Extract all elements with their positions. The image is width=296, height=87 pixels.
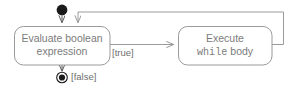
- uml-state-diagram: Evaluate boolean expression Execute whil…: [0, 0, 296, 87]
- evaluate-boolean-expression-state[interactable]: [14, 26, 110, 65]
- initial-state-node[interactable]: [56, 4, 68, 16]
- final-state-node[interactable]: [56, 71, 69, 84]
- execute-while-body-state[interactable]: [178, 26, 272, 65]
